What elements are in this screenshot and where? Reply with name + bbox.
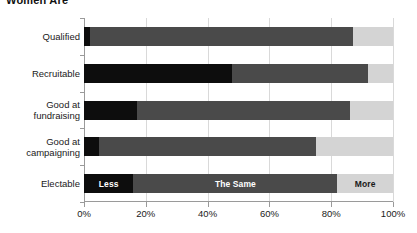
- bar-segment-same[interactable]: [232, 64, 368, 83]
- category-label: Good atcampaigning: [0, 136, 80, 158]
- bar-segment-label: Less: [99, 179, 119, 189]
- y-axis-tick: [80, 165, 84, 166]
- x-axis-tick: [331, 202, 332, 207]
- bar-row[interactable]: [84, 137, 393, 156]
- x-axis-tick: [269, 202, 270, 207]
- bar-segment-more[interactable]: [353, 27, 393, 46]
- x-axis-tick-label: 100%: [373, 208, 413, 219]
- gridline-100: [393, 18, 394, 202]
- bar-row[interactable]: [84, 101, 393, 120]
- bar-segment-same[interactable]: [90, 27, 353, 46]
- x-axis-tick: [393, 202, 394, 207]
- x-axis-tick: [84, 202, 85, 207]
- bar-segment-label: More: [355, 179, 376, 189]
- bar-segment-more[interactable]: More: [337, 174, 393, 193]
- bar-rows: LessThe SameMore: [84, 18, 393, 202]
- x-axis-tick-label: 60%: [249, 208, 289, 219]
- bar-segment-more[interactable]: [316, 137, 393, 156]
- bar-segment-less[interactable]: [84, 101, 137, 120]
- y-axis-tick: [80, 128, 84, 129]
- bar-segment-more[interactable]: [368, 64, 393, 83]
- y-axis-tick: [80, 18, 84, 19]
- bar-row[interactable]: LessThe SameMore: [84, 174, 393, 193]
- y-axis-tick: [80, 55, 84, 56]
- category-axis-labels: QualifiedRecruitableGood atfundraisingGo…: [0, 18, 80, 202]
- category-label: Electable: [0, 178, 80, 189]
- category-label-line: Good at: [0, 99, 80, 110]
- bar-segment-less[interactable]: [84, 137, 99, 156]
- x-axis-tick-labels: 0%20%40%60%80%100%: [0, 208, 417, 224]
- y-axis-tick: [80, 202, 84, 203]
- x-axis-tick: [146, 202, 147, 207]
- bar-segment-same[interactable]: [137, 101, 350, 120]
- plot-area: LessThe SameMore: [84, 18, 393, 202]
- category-label-line: Electable: [0, 178, 80, 189]
- bar-segment-same[interactable]: [99, 137, 315, 156]
- x-axis-tick: [208, 202, 209, 207]
- y-axis-tick: [80, 92, 84, 93]
- x-axis-tick-label: 40%: [188, 208, 228, 219]
- category-label: Qualified: [0, 31, 80, 42]
- category-label: Recruitable: [0, 68, 80, 79]
- category-label: Good atfundraising: [0, 99, 80, 121]
- category-label-line: Recruitable: [0, 68, 80, 79]
- bar-segment-same[interactable]: The Same: [133, 174, 337, 193]
- x-axis-tick-label: 20%: [126, 208, 166, 219]
- bar-row[interactable]: [84, 27, 393, 46]
- category-label-line: fundraising: [0, 110, 80, 121]
- category-label-line: campaigning: [0, 147, 80, 158]
- x-axis-tick-label: 0%: [64, 208, 104, 219]
- stacked-bar-chart: Women Are QualifiedRecruitableGood atfun…: [0, 0, 417, 233]
- bar-segment-label: The Same: [215, 179, 256, 189]
- bar-segment-less[interactable]: Less: [84, 174, 133, 193]
- bar-row[interactable]: [84, 64, 393, 83]
- chart-title: Women Are: [6, 0, 68, 6]
- bar-segment-more[interactable]: [350, 101, 393, 120]
- category-label-line: Qualified: [0, 31, 80, 42]
- x-axis-tick-label: 80%: [311, 208, 351, 219]
- bar-segment-less[interactable]: [84, 64, 232, 83]
- category-label-line: Good at: [0, 136, 80, 147]
